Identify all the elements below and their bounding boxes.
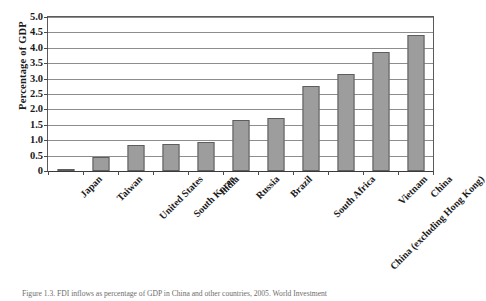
bar-slot xyxy=(118,17,153,171)
bar[interactable] xyxy=(232,120,249,171)
bar-slot xyxy=(188,17,223,171)
bar-slot xyxy=(83,17,118,171)
bar[interactable] xyxy=(162,144,179,171)
bar[interactable] xyxy=(407,35,424,171)
x-axis-label: Japan xyxy=(78,174,104,200)
bar-slot xyxy=(328,17,363,171)
figure-caption: Figure 1.3. FDI inflows as percentage of… xyxy=(22,289,434,298)
x-axis-label: Brazil xyxy=(288,174,314,200)
y-axis-tick-label: 2.5 xyxy=(30,89,43,100)
bar[interactable] xyxy=(267,118,284,171)
bar-slot xyxy=(363,17,398,171)
y-axis-tick-label: 5.0 xyxy=(30,12,43,23)
y-axis-tick-label: 3.5 xyxy=(30,58,43,69)
y-axis-tick-label: 4.0 xyxy=(30,43,43,54)
bar[interactable] xyxy=(127,145,144,171)
bar[interactable] xyxy=(337,74,354,171)
y-axis-tick-label: 2.0 xyxy=(30,104,43,115)
bar[interactable] xyxy=(92,157,109,171)
bar-slot xyxy=(258,17,293,171)
x-axis-label: China xyxy=(428,174,454,200)
y-axis-tick-label: 0 xyxy=(38,166,43,177)
y-axis-tick-label: 0.5 xyxy=(30,150,43,161)
bars-group xyxy=(48,17,433,171)
x-axis-label: Russia xyxy=(254,174,281,201)
x-axis-label: Vietnam xyxy=(396,174,429,207)
bar-slot xyxy=(48,17,83,171)
bar[interactable] xyxy=(302,86,319,171)
bar-slot xyxy=(153,17,188,171)
x-axis-label: India xyxy=(217,174,241,198)
x-axis-labels-group: JapanTaiwanUnited StatesSouth KoreaIndia… xyxy=(47,174,434,294)
bar[interactable] xyxy=(57,169,74,171)
bar-slot xyxy=(223,17,258,171)
bar-slot xyxy=(398,17,433,171)
plot-area: 00.51.01.52.02.53.03.54.04.55.0 xyxy=(47,16,434,172)
y-axis-tick-label: 3.0 xyxy=(30,73,43,84)
bar-slot xyxy=(293,17,328,171)
y-axis-tick-label: 1.0 xyxy=(30,135,43,146)
y-axis-title: Percentage of GDP xyxy=(17,0,28,136)
y-axis-tick-label: 1.5 xyxy=(30,120,43,131)
x-axis-label: Taiwan xyxy=(115,174,145,204)
bar[interactable] xyxy=(372,52,389,171)
y-axis-tick-label: 4.5 xyxy=(30,27,43,38)
x-axis-label: South Africa xyxy=(331,174,377,220)
bar[interactable] xyxy=(197,142,214,171)
